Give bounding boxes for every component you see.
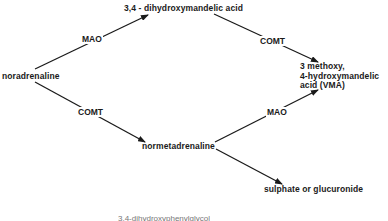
arrow-normet-to-conj bbox=[216, 149, 282, 184]
node-sulphate-glucuronide: sulphate or glucuronide bbox=[264, 185, 363, 195]
enzyme-comt-bottom: COMT bbox=[77, 107, 104, 117]
node-vma-line3: acid (VMA) bbox=[300, 81, 379, 91]
caption-clipped: 3,4-dihydroxyphenylglycol bbox=[118, 214, 210, 221]
node-dihydroxymandelic-acid: 3,4 - dihydroxymandelic acid bbox=[124, 4, 243, 14]
node-vma: 3 methoxy, 4-hydroxymandelic acid (VMA) bbox=[300, 62, 379, 91]
enzyme-mao-top: MAO bbox=[81, 34, 103, 44]
enzyme-mao-bottom: MAO bbox=[266, 107, 288, 117]
enzyme-comt-top: COMT bbox=[259, 36, 286, 46]
node-normetadrenaline: normetadrenaline bbox=[142, 142, 215, 152]
node-noradrenaline: noradrenaline bbox=[2, 72, 60, 82]
